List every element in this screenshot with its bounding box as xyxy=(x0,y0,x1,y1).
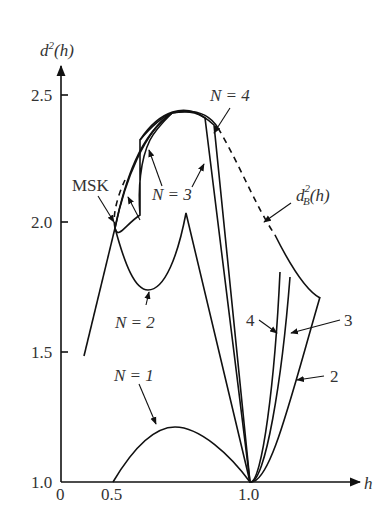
y-tick-2-0: 2.0 xyxy=(31,214,52,231)
n4-label: N = 4 xyxy=(210,87,250,104)
y-tick-1-5: 1.5 xyxy=(31,344,52,361)
x-tick-1-0: 1.0 xyxy=(238,486,259,503)
x-axis-label: h xyxy=(364,475,373,492)
n3-label: N = 3 xyxy=(152,186,192,203)
x-tick-0: 0 xyxy=(56,486,65,503)
n1-curve xyxy=(113,427,250,482)
n2-end-label: 2 xyxy=(330,368,339,385)
msk-label: MSK xyxy=(72,177,109,194)
n3-end-label: 3 xyxy=(344,312,353,329)
n2-curve xyxy=(115,213,320,482)
n3-curve xyxy=(115,113,172,232)
chart-container: d2(h) h 2.5 2.0 1.5 1.0 0 0.5 1.0 MSK N … xyxy=(0,0,378,523)
x-tick-0-5: 0.5 xyxy=(101,486,122,503)
msk-curve xyxy=(84,228,115,356)
y-axis-label: d2(h) xyxy=(40,40,74,59)
n2-label: N = 2 xyxy=(115,314,155,331)
chart-plot xyxy=(0,0,378,523)
db-label: d2B(h) xyxy=(296,185,330,207)
y-tick-2-5: 2.5 xyxy=(31,87,52,104)
y-tick-1-0: 1.0 xyxy=(31,474,52,491)
db-envelope-solid xyxy=(115,111,218,228)
n1-label: N = 1 xyxy=(114,367,154,384)
n4-end-label: 4 xyxy=(246,312,255,329)
